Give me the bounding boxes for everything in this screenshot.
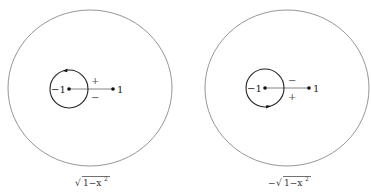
point-minus-one xyxy=(263,86,267,90)
caption-radicand: 1−x xyxy=(284,178,302,188)
diagram-positive-branch: −1 1 + − √ 1−x 2 xyxy=(8,10,172,188)
point-one xyxy=(307,86,311,90)
lower-sign: + xyxy=(288,91,296,102)
label-one: 1 xyxy=(117,84,123,95)
upper-sign: + xyxy=(91,75,99,86)
diagram-negative-branch: −1 1 − + − √ 1−x 2 xyxy=(205,10,369,188)
caption: √ 1−x 2 xyxy=(75,175,110,188)
caption-exponent: 2 xyxy=(104,175,108,182)
point-one xyxy=(111,87,115,91)
lower-sign: − xyxy=(91,92,99,103)
caption-radicand: 1−x xyxy=(83,178,101,188)
point-minus-one xyxy=(67,87,71,91)
label-minus-one: −1 xyxy=(247,83,262,94)
caption-exponent: 2 xyxy=(305,175,309,182)
caption-minus-sign: − xyxy=(268,178,276,188)
label-minus-one: −1 xyxy=(51,84,66,95)
caption: − √ 1−x 2 xyxy=(268,175,311,188)
caption-radical-sign: √ xyxy=(276,178,282,188)
label-one: 1 xyxy=(313,83,319,94)
upper-sign: − xyxy=(288,75,296,86)
outer-circle xyxy=(8,10,172,166)
riemann-sheet-diagrams: −1 1 + − √ 1−x 2 −1 1 − + − √ 1−x 2 xyxy=(0,0,371,193)
caption-radical-sign: √ xyxy=(75,178,81,188)
